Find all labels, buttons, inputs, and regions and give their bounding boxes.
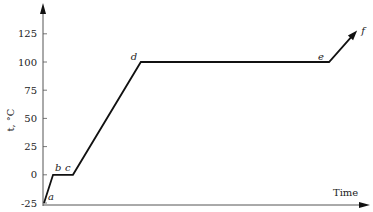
y-axis-arrow-icon (40, 3, 46, 14)
y-tick-label: 0 (31, 169, 37, 180)
point-label-a: a (48, 191, 54, 202)
heating-curve-chart: -250255075100125 t, °C Time abcdef (0, 0, 373, 212)
point-label-c: c (65, 162, 71, 173)
y-tick-label: 25 (24, 141, 37, 152)
y-tick-label: 75 (24, 85, 37, 96)
point-labels: abcdef (48, 25, 367, 202)
point-label-d: d (131, 51, 137, 62)
point-label-e: e (318, 51, 324, 62)
y-axis-title: t, °C (5, 108, 16, 131)
x-axis (43, 202, 370, 208)
x-axis-title: Time (333, 187, 358, 198)
point-label-b: b (55, 162, 61, 173)
x-axis-arrow-icon (359, 202, 370, 208)
y-tick-label: 125 (18, 28, 37, 39)
y-tick-label: 50 (24, 113, 37, 124)
y-tick-label: 100 (18, 57, 37, 68)
point-label-f: f (360, 25, 367, 36)
heating-curve-line (44, 36, 352, 203)
y-tick-label: -25 (21, 198, 37, 209)
